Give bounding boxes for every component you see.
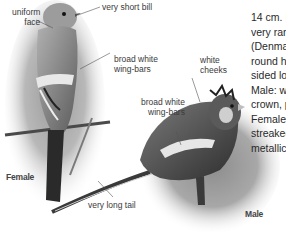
label-line: cheeks xyxy=(200,65,227,75)
bird-illustration: uniform face very short bill broad white… xyxy=(0,0,286,235)
description-line: round h xyxy=(251,54,286,69)
description-line: Female: xyxy=(251,112,286,127)
label-line: uniform xyxy=(12,7,40,17)
description-line: 14 cm. I xyxy=(251,10,286,25)
label-line: face xyxy=(12,17,40,27)
label-line: wing-bars xyxy=(141,107,185,117)
label-line: broad white xyxy=(141,97,185,107)
description-line: very rare xyxy=(251,25,286,40)
bird-photos-icon xyxy=(0,0,286,235)
label-very-short-bill: very short bill xyxy=(102,2,152,12)
label-white-cheeks: white cheeks xyxy=(200,55,227,75)
label-male-wing-bars: broad white wing-bars xyxy=(141,97,185,117)
label-uniform-face: uniform face xyxy=(12,7,40,27)
description-line: streaked xyxy=(251,126,286,141)
caption-female: Female xyxy=(6,172,34,182)
species-description: 14 cm. I very rare (Denma round h sided … xyxy=(251,10,286,155)
label-line: broad white xyxy=(114,54,158,64)
description-line: (Denma xyxy=(251,39,286,54)
description-line: Male: w xyxy=(251,83,286,98)
label-line: wing-bars xyxy=(114,64,158,74)
caption-male: Male xyxy=(245,209,263,219)
description-line: sided lo xyxy=(251,68,286,83)
label-female-wing-bars: broad white wing-bars xyxy=(114,54,158,74)
description-line: metallic xyxy=(251,141,286,156)
label-line: white xyxy=(200,55,227,65)
description-line: crown, p xyxy=(251,97,286,112)
label-very-long-tail: very long tail xyxy=(88,200,136,210)
